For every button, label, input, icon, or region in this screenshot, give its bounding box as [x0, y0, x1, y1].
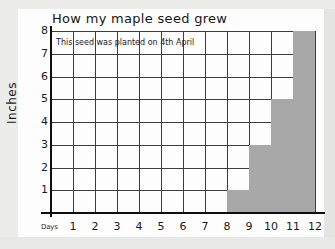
- gridline-horizontal: [51, 54, 315, 55]
- chart-title: How my maple seed grew: [52, 11, 227, 26]
- bar: [227, 190, 249, 213]
- plot-area: [51, 31, 315, 213]
- x-tick-label: 8: [216, 220, 238, 233]
- bar: [293, 31, 315, 213]
- gridline-vertical: [315, 31, 316, 213]
- x-axis-title: Days: [41, 223, 58, 231]
- x-tick-label: 10: [260, 220, 282, 233]
- x-axis-line: [41, 212, 325, 214]
- gridline-horizontal: [51, 77, 315, 78]
- x-tick-label: 7: [194, 220, 216, 233]
- y-axis-title: Inches: [5, 73, 19, 133]
- chart-annotation: This seed was planted on 4th April: [56, 38, 194, 47]
- y-tick-label: 2: [32, 161, 48, 174]
- paper-edge-right: [324, 9, 335, 237]
- y-axis-ticks: 12345678: [28, 0, 48, 249]
- y-tick-label: 6: [32, 70, 48, 83]
- x-tick-label: 9: [238, 220, 260, 233]
- x-tick-label: 4: [128, 220, 150, 233]
- x-tick-label: 12: [304, 220, 326, 233]
- x-tick-label: 3: [106, 220, 128, 233]
- x-tick-label: 2: [84, 220, 106, 233]
- gridline-horizontal: [51, 31, 315, 32]
- y-tick-label: 7: [32, 47, 48, 60]
- x-tick-label: 6: [172, 220, 194, 233]
- y-axis-line: [50, 26, 52, 217]
- y-tick-label: 5: [32, 92, 48, 105]
- bar: [249, 145, 271, 213]
- y-tick-label: 3: [32, 138, 48, 151]
- x-tick-label: 11: [282, 220, 304, 233]
- chart-image: How my maple seed grew This seed was pla…: [0, 0, 335, 249]
- y-tick-label: 4: [32, 115, 48, 128]
- bar: [271, 99, 293, 213]
- y-tick-label: 8: [32, 24, 48, 37]
- paper-edge-bottom: [0, 237, 335, 249]
- y-tick-label: 1: [32, 183, 48, 196]
- x-tick-label: 5: [150, 220, 172, 233]
- x-tick-label: 1: [62, 220, 84, 233]
